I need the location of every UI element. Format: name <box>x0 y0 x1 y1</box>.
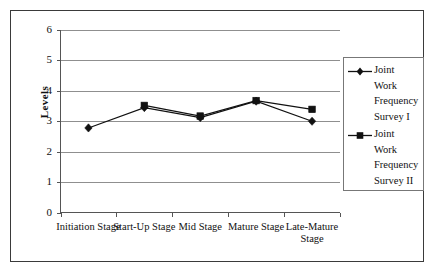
data-series <box>85 97 316 132</box>
square-marker-icon <box>197 113 204 120</box>
square-marker-icon <box>348 130 372 141</box>
gridlines <box>61 31 341 183</box>
chart-legend: Joint Work Frequency Survey I Joint Work… <box>343 57 424 191</box>
legend-label-survey-ii: Joint Work Frequency Survey II <box>374 126 422 188</box>
y-axis-title: Levels <box>38 72 50 132</box>
diamond-marker-icon <box>348 66 372 77</box>
diamond-marker-icon <box>308 117 315 125</box>
square-marker-icon <box>141 102 148 109</box>
y-tick-label: 0 <box>28 206 52 218</box>
legend-label-survey-i: Joint Work Frequency Survey I <box>374 62 422 124</box>
y-tick-label: 2 <box>28 145 52 157</box>
x-category-label: Late-Mature Stage <box>277 221 347 246</box>
square-marker-icon <box>309 106 316 113</box>
chart-figure: 0123456 Initiation StageStart-Up StageMi… <box>0 0 437 275</box>
y-tick-label: 6 <box>28 23 52 35</box>
y-tick-label: 5 <box>28 53 52 65</box>
y-tick-label: 1 <box>28 175 52 187</box>
diamond-marker-icon <box>85 124 92 132</box>
series-line <box>144 101 312 117</box>
square-marker-icon <box>253 97 260 104</box>
